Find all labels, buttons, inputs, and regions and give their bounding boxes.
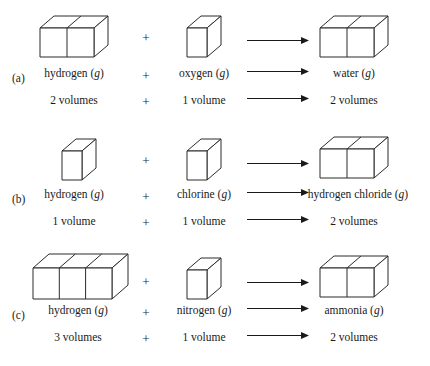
label-reactant2-b: chlorine (g) — [177, 189, 231, 201]
volume-product-c: 2 volumes — [330, 332, 378, 344]
volume-reactant2-a: 1 volume — [182, 95, 225, 107]
volume-reactant1-c: 3 volumes — [54, 332, 102, 344]
box-group-reactant2-b — [187, 139, 221, 181]
plus-sign-top-c: + — [139, 275, 153, 288]
box-group-product-b — [320, 137, 388, 179]
reaction-row-b: (b) + — [0, 121, 430, 243]
volume-product-a: 2 volumes — [330, 95, 378, 107]
label-product-c: ammonia (g) — [324, 305, 383, 317]
label-reactant2-a: oxygen (g) — [179, 68, 229, 80]
label-product-name-a: water — [333, 67, 359, 79]
label-product-b: hydrogen chloride (g) — [308, 189, 408, 201]
reaction-arrow-top-b — [247, 159, 309, 168]
row-label-a: (a) — [12, 73, 38, 85]
volume-reactant2-b: 1 volume — [182, 216, 225, 228]
label-reactant2-name-b: chlorine — [177, 188, 215, 200]
reaction-arrow-top-c — [247, 278, 309, 287]
label-reactant2-name-c: nitrogen — [177, 304, 215, 316]
label-reactant2-c: nitrogen (g) — [177, 305, 232, 317]
plus-sign-top-a: + — [139, 31, 153, 44]
plus-sign-bottom-b: + — [139, 216, 153, 229]
label-product-name-b: hydrogen chloride — [308, 188, 392, 200]
reaction-arrow-mid-a — [247, 67, 309, 76]
box-group-reactant1-a — [40, 16, 108, 58]
plus-sign-top-b: + — [139, 154, 153, 167]
label-reactant1-b: hydrogen (g) — [44, 189, 104, 201]
plus-sign-bottom-c: + — [139, 332, 153, 345]
box-group-product-a — [320, 16, 388, 58]
label-reactant1-name-c: hydrogen — [48, 304, 91, 316]
plus-sign-mid-b: + — [139, 190, 153, 203]
box-group-reactant2-c — [187, 258, 221, 300]
label-product-a: water (g) — [333, 68, 375, 80]
plus-sign-bottom-a: + — [139, 95, 153, 108]
reaction-arrow-mid-b — [247, 188, 309, 197]
reaction-arrow-bottom-c — [247, 331, 309, 340]
label-reactant1-c: hydrogen (g) — [48, 305, 108, 317]
label-product-name-c: ammonia — [324, 304, 367, 316]
row-label-b: (b) — [12, 194, 38, 206]
reaction-arrow-bottom-a — [247, 94, 309, 103]
volume-product-b: 2 volumes — [330, 216, 378, 228]
plus-sign-mid-c: + — [139, 306, 153, 319]
reaction-row-a: (a) + — [0, 0, 430, 122]
label-reactant1-name-b: hydrogen — [44, 188, 87, 200]
volume-reactant2-c: 1 volume — [182, 332, 225, 344]
reaction-arrow-bottom-b — [247, 215, 309, 224]
volume-reactant1-b: 1 volume — [52, 216, 95, 228]
box-group-product-c — [320, 256, 388, 298]
label-reactant2-name-a: oxygen — [179, 67, 213, 79]
plus-sign-mid-a: + — [139, 69, 153, 82]
label-reactant1-name-a: hydrogen — [44, 67, 87, 79]
volume-reactant1-a: 2 volumes — [50, 95, 98, 107]
reaction-arrow-top-a — [247, 36, 309, 45]
row-label-c: (c) — [12, 310, 38, 322]
label-reactant1-a: hydrogen (g) — [44, 68, 104, 80]
box-group-reactant1-b — [62, 139, 96, 181]
reaction-row-c: (c) + — [0, 240, 430, 362]
box-group-reactant2-a — [187, 16, 221, 58]
combining-volumes-figure: (a) + — [0, 0, 430, 366]
box-group-reactant1-c — [33, 254, 128, 300]
reaction-arrow-mid-c — [247, 304, 309, 313]
